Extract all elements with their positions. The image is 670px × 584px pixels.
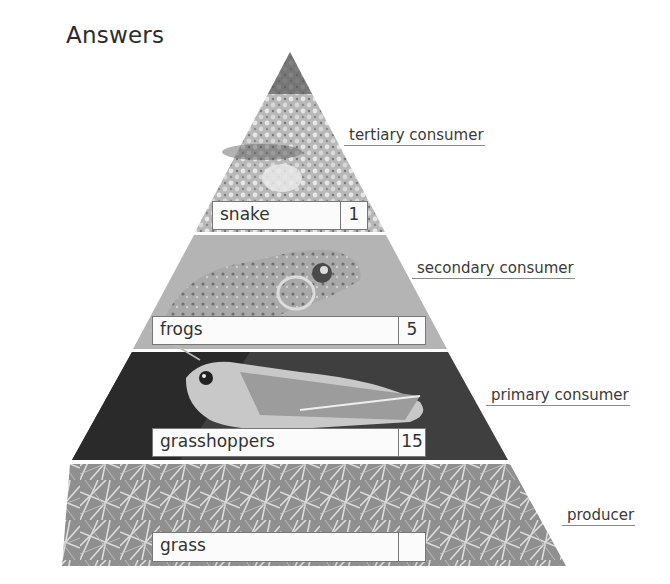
organism-count[interactable]: 1 (340, 202, 367, 229)
role-label-producer: producer (562, 506, 635, 526)
tier-box-grass: grass (152, 532, 426, 562)
organism-count[interactable]: 15 (398, 429, 425, 456)
tier-box-snake: snake 1 (212, 201, 368, 230)
organism-count[interactable]: 5 (398, 317, 425, 344)
tier-box-grasshoppers: grasshoppers 15 (152, 428, 426, 457)
food-pyramid (0, 0, 670, 584)
organism-name: grasshoppers (153, 429, 398, 456)
role-label-tertiary: tertiary consumer (344, 126, 485, 146)
organism-name: frogs (153, 317, 398, 344)
tier-box-frogs: frogs 5 (152, 316, 426, 345)
role-label-secondary: secondary consumer (412, 259, 575, 279)
organism-name: grass (153, 533, 398, 561)
role-label-primary: primary consumer (486, 386, 630, 406)
organism-name: snake (213, 202, 340, 229)
organism-count[interactable] (398, 533, 425, 561)
